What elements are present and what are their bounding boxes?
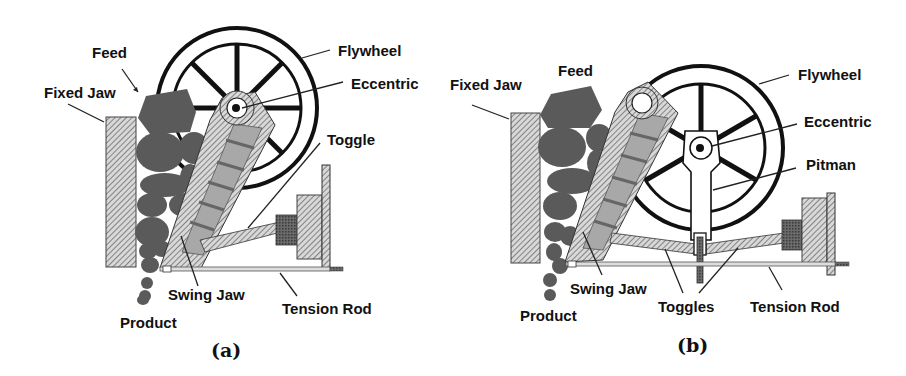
label-feed-b: Feed [558,62,593,79]
label-fixed-jaw-b: Fixed Jaw [450,76,522,93]
label-pitman-b: Pitman [806,156,856,173]
fixed-jaw-a [106,117,136,267]
label-product-a: Product [120,314,177,331]
caption-a: (a) [211,339,241,361]
toggle-left-b [610,233,696,254]
label-feed-a: Feed [92,44,127,61]
label-swing-jaw-a: Swing Jaw [168,286,245,303]
eccentric-shaft-b [696,144,704,152]
label-eccentric-b: Eccentric [804,113,872,130]
fixed-jaw-b [511,113,540,263]
label-toggles-b: Toggles [658,298,714,315]
label-tension-rod-a: Tension Rod [282,300,372,317]
tension-rod-a [160,266,343,272]
toggle-right-b [706,233,784,254]
label-eccentric-a: Eccentric [351,75,419,92]
label-flywheel-b: Flywheel [798,66,861,83]
label-fixed-jaw-a: Fixed Jaw [44,84,116,101]
label-toggle-a: Toggle [327,131,375,148]
label-tension-rod-b: Tension Rod [750,298,840,315]
panel-b: Feed Fixed Jaw Flywheel Eccentric Pitman… [450,62,872,356]
tension-rod-b [566,261,849,267]
caption-b: (b) [677,334,708,356]
label-swing-jaw-b: Swing Jaw [570,280,647,297]
jaw-crusher-diagram: Feed Fixed Jaw Flywheel Eccentric Toggle… [0,0,906,376]
eccentric-shaft-a [232,104,240,112]
label-product-b: Product [520,307,577,324]
label-flywheel-a: Flywheel [338,42,401,59]
panel-a: Feed Fixed Jaw Flywheel Eccentric Toggle… [44,28,419,361]
